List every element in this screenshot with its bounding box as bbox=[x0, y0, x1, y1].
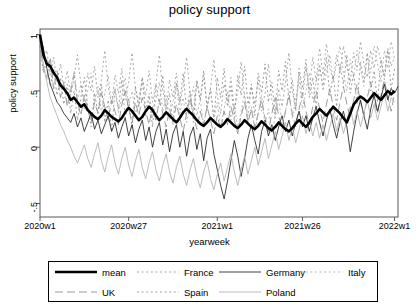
legend-item-poland[interactable]: Poland bbox=[213, 282, 295, 302]
legend-swatch bbox=[137, 286, 179, 298]
legend-label: Spain bbox=[184, 287, 208, 298]
x-tick-label: 2022w1 bbox=[365, 221, 419, 231]
legend-item-france[interactable]: France bbox=[131, 262, 213, 282]
legend-swatch bbox=[219, 286, 261, 298]
y-tick-label: 1 bbox=[29, 34, 39, 56]
plot-area bbox=[0, 0, 419, 230]
x-tick-label: 2020w1 bbox=[10, 221, 70, 231]
x-tick-label: 2020w27 bbox=[99, 221, 159, 231]
x-tick-label: 2021w26 bbox=[273, 221, 333, 231]
legend-swatch bbox=[301, 266, 343, 278]
legend-label: UK bbox=[102, 287, 115, 298]
legend-item-germany[interactable]: Germany bbox=[213, 262, 295, 282]
legend-swatch bbox=[55, 286, 97, 298]
legend-line-icon bbox=[137, 286, 179, 298]
legend-item-uk[interactable]: UK bbox=[49, 282, 131, 302]
y-axis-label: policy support bbox=[7, 29, 18, 139]
legend-line-icon bbox=[55, 266, 97, 278]
x-tick-label: 2021w1 bbox=[187, 221, 247, 231]
chart-svg bbox=[0, 0, 419, 230]
legend-label: Italy bbox=[348, 267, 365, 278]
legend-label: mean bbox=[102, 267, 126, 278]
legend-swatch bbox=[137, 266, 179, 278]
legend-line-icon bbox=[55, 286, 97, 298]
legend-row-2: UKSpainPoland bbox=[49, 282, 377, 302]
legend-line-icon bbox=[137, 266, 179, 278]
legend-item-italy[interactable]: Italy bbox=[295, 262, 377, 282]
legend: meanFranceGermanyItaly UKSpainPoland bbox=[48, 261, 378, 302]
legend-swatch bbox=[219, 266, 261, 278]
legend-item-spain[interactable]: Spain bbox=[131, 282, 213, 302]
legend-line-icon bbox=[219, 286, 261, 298]
legend-line-icon bbox=[219, 266, 261, 278]
legend-item-mean[interactable]: mean bbox=[49, 262, 131, 282]
legend-line-icon bbox=[301, 266, 343, 278]
legend-row-1: meanFranceGermanyItaly bbox=[49, 262, 377, 282]
legend-swatch bbox=[55, 266, 97, 278]
y-tick-label: .5 bbox=[29, 90, 39, 112]
legend-label: France bbox=[184, 267, 214, 278]
legend-label: Poland bbox=[266, 287, 296, 298]
x-axis-label: yearweek bbox=[0, 236, 419, 247]
y-tick-label: 0 bbox=[29, 146, 39, 168]
